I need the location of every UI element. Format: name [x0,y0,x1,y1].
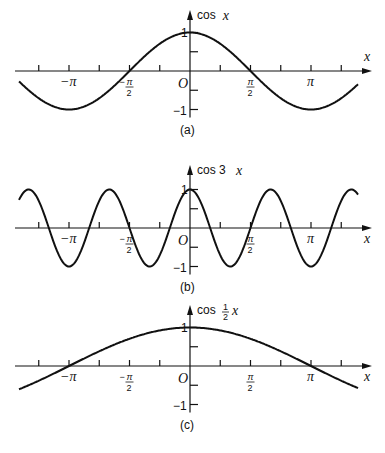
panel-caption: (a) [180,123,195,137]
x-tick-label-pi: π [248,372,255,382]
x-tick-label: π [307,74,315,89]
y-label-neg1: −1 [173,261,187,275]
x-tick-label-pi: π [127,372,134,382]
panel-caption: (b) [180,280,195,294]
origin-label: O [178,233,188,248]
x-tick-label-pi: π [248,77,255,87]
x-tick-label-minus: − [120,372,125,382]
x-tick-label: π [307,369,315,384]
function-var: x [222,8,230,23]
x-tick-label-2: 2 [248,88,253,98]
x-tick-label-2: 2 [248,383,253,393]
origin-label: O [178,371,188,386]
coef-num: 1 [223,302,228,312]
cosine-figure: 1−1Ox−π−π2π2πcos x(a)1−1Ox−π−π2π2πcos 3 … [0,0,385,453]
x-tick-label: −π [60,369,77,384]
function-label: cos 3 [197,163,226,177]
y-label-neg1: −1 [173,104,187,118]
x-axis-arrow-icon [362,68,372,74]
y-axis-arrow-icon [187,10,193,20]
x-axis-label: x [363,49,371,64]
x-tick-label-2: 2 [127,245,132,255]
x-axis-label: x [363,231,371,246]
x-tick-label: −π [60,74,77,89]
x-tick-label-2: 2 [248,245,253,255]
y-axis-arrow-icon [187,305,193,315]
y-axis-arrow-icon [187,165,193,175]
function-var: x [231,303,239,318]
origin-label: O [178,76,188,91]
x-tick-label-minus: − [120,234,125,244]
function-var: x [235,163,243,178]
x-tick-label: π [307,231,315,246]
x-axis-label: x [363,369,371,384]
coef-den: 2 [223,312,228,322]
function-label: cos [197,8,216,22]
x-tick-label-pi: π [127,77,134,87]
x-tick-label: −π [60,231,77,246]
function-label: cos [197,303,216,317]
panel-caption: (c) [180,418,194,432]
x-tick-label-2: 2 [127,88,132,98]
y-label-neg1: −1 [173,399,187,413]
x-tick-label-2: 2 [127,383,132,393]
